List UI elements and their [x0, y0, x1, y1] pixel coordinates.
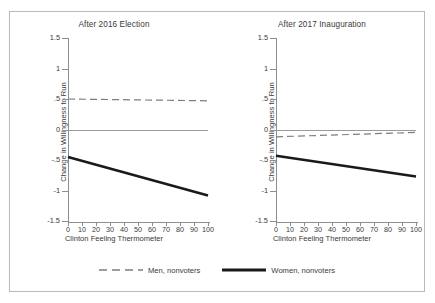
- y-tick-label: 0: [56, 125, 60, 134]
- x-tick-label: 80: [176, 225, 184, 234]
- x-axis-line: [276, 222, 418, 223]
- legend-label: Men, nonvoters: [148, 266, 200, 275]
- legend-item-women-nonvoters: Women, nonvoters: [222, 266, 335, 275]
- x-axis-label: Clinton Feeling Thermometer: [218, 234, 426, 243]
- legend-swatch-dashed: [99, 266, 143, 274]
- x-tick-label: 10: [286, 225, 294, 234]
- y-tick-label: -1: [53, 186, 60, 195]
- line-men-nonvoters: [276, 132, 416, 136]
- y-tick-label: -.5: [259, 155, 268, 164]
- y-tick: 0: [270, 130, 276, 131]
- y-tick-label: .5: [54, 94, 60, 103]
- x-tick-label: 100: [410, 225, 422, 234]
- y-tick-label: -.5: [51, 155, 60, 164]
- x-tick-label: 20: [300, 225, 308, 234]
- panel-title: After 2017 Inauguration: [218, 20, 426, 29]
- y-axis-label: Change in Willingness to Run: [267, 82, 276, 182]
- chart-legend: Men, nonvoters Women, nonvoters: [10, 260, 424, 280]
- x-tick-label: 90: [398, 225, 406, 234]
- line-men-nonvoters: [68, 99, 208, 101]
- x-tick-label: 10: [78, 225, 86, 234]
- x-tick-label: 60: [148, 225, 156, 234]
- legend-swatch-solid: [222, 266, 266, 274]
- legend-item-men-nonvoters: Men, nonvoters: [99, 266, 200, 275]
- y-tick-label: 1.5: [50, 33, 60, 42]
- x-tick-label: 40: [328, 225, 336, 234]
- y-tick-label: 1: [264, 64, 268, 73]
- y-tick: 1: [270, 69, 276, 70]
- x-tick-label: 30: [314, 225, 322, 234]
- line-women-nonvoters: [276, 156, 416, 177]
- y-tick: 1.5: [62, 38, 68, 39]
- legend-label: Women, nonvoters: [271, 266, 335, 275]
- y-tick: 1.5: [270, 38, 276, 39]
- x-tick-label: 50: [342, 225, 350, 234]
- y-tick-label: 0: [264, 125, 268, 134]
- x-tick-label: 80: [384, 225, 392, 234]
- y-tick: -1: [62, 191, 68, 192]
- x-tick-label: 70: [162, 225, 170, 234]
- y-tick: .5: [270, 99, 276, 100]
- y-tick: 0: [62, 130, 68, 131]
- x-tick-label: 0: [274, 225, 278, 234]
- x-tick-label: 90: [190, 225, 198, 234]
- x-axis-line: [68, 222, 210, 223]
- series-lines: [276, 38, 416, 221]
- x-tick-label: 0: [66, 225, 70, 234]
- y-tick-label: 1.5: [258, 33, 268, 42]
- x-tick-label: 100: [202, 225, 214, 234]
- x-tick-label: 30: [106, 225, 114, 234]
- figure-frame: After 2016 Election Change in Willingnes…: [9, 11, 425, 292]
- panel-title: After 2016 Election: [10, 20, 218, 29]
- y-tick: .5: [62, 99, 68, 100]
- y-axis-label: Change in Willingness to Run: [59, 82, 68, 182]
- y-tick: -1: [270, 191, 276, 192]
- y-tick-label: .5: [262, 94, 268, 103]
- y-tick: -.5: [270, 160, 276, 161]
- y-tick: 1: [62, 69, 68, 70]
- plot-area: [276, 38, 416, 221]
- x-axis-label: Clinton Feeling Thermometer: [10, 234, 218, 243]
- x-tick-label: 50: [134, 225, 142, 234]
- chart-panel-left: After 2016 Election Change in Willingnes…: [10, 12, 218, 252]
- plot-area: [68, 38, 208, 221]
- series-lines: [68, 38, 208, 221]
- chart-panel-right: After 2017 Inauguration Change in Willin…: [218, 12, 426, 252]
- y-tick-label: -1.5: [47, 216, 60, 225]
- x-tick-label: 60: [356, 225, 364, 234]
- y-tick: -.5: [62, 160, 68, 161]
- y-tick-label: 1: [56, 64, 60, 73]
- x-tick-label: 40: [120, 225, 128, 234]
- line-women-nonvoters: [68, 157, 208, 195]
- x-tick-label: 20: [92, 225, 100, 234]
- x-tick-label: 70: [370, 225, 378, 234]
- y-tick-label: -1: [261, 186, 268, 195]
- y-tick-label: -1.5: [255, 216, 268, 225]
